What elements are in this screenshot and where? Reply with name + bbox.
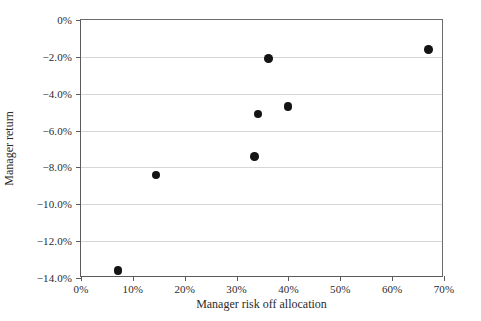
y-tick-mark	[76, 131, 81, 132]
y-axis-title-label: Manager return	[2, 111, 17, 185]
gridline	[81, 204, 442, 205]
x-tick-label: 10%	[123, 283, 143, 295]
y-tick-label: −6.0%	[42, 125, 72, 137]
data-point	[254, 110, 263, 119]
y-tick-mark	[76, 241, 81, 242]
y-tick-label: −8.0%	[42, 161, 72, 173]
y-tick-mark	[76, 204, 81, 205]
x-tick-mark	[185, 276, 186, 281]
y-tick-mark	[76, 57, 81, 58]
data-point	[424, 45, 433, 54]
x-tick-label: 70%	[434, 283, 454, 295]
gridline	[81, 57, 442, 58]
data-point	[152, 171, 161, 180]
x-tick-mark	[288, 276, 289, 281]
x-tick-mark	[340, 276, 341, 281]
data-point	[114, 266, 123, 275]
y-tick-mark	[76, 167, 81, 168]
y-tick-label: 0%	[57, 14, 72, 26]
y-tick-label: −4.0%	[42, 88, 72, 100]
y-tick-label: −12.0%	[37, 235, 72, 247]
data-point	[264, 54, 273, 63]
y-tick-label: −2.0%	[42, 51, 72, 63]
x-tick-mark	[133, 276, 134, 281]
x-tick-mark	[81, 276, 82, 281]
x-tick-label: 0%	[74, 283, 89, 295]
y-tick-label: −10.0%	[37, 198, 72, 210]
x-axis-title: Manager risk off allocation	[80, 297, 443, 312]
data-point	[284, 102, 293, 111]
y-tick-label: −14.0%	[37, 272, 72, 284]
y-tick-mark	[76, 94, 81, 95]
x-tick-label: 50%	[330, 283, 350, 295]
gridline	[81, 131, 442, 132]
gridline	[81, 94, 442, 95]
x-tick-mark	[237, 276, 238, 281]
x-tick-label: 30%	[226, 283, 246, 295]
gridline	[81, 241, 442, 242]
y-tick-mark	[76, 20, 81, 21]
gridline	[81, 167, 442, 168]
x-tick-mark	[392, 276, 393, 281]
x-tick-label: 60%	[382, 283, 402, 295]
data-point	[250, 152, 259, 161]
x-tick-label: 20%	[174, 283, 194, 295]
y-axis-title: Manager return	[0, 19, 18, 277]
plot-area: 0%−2.0%−4.0%−6.0%−8.0%−10.0%−12.0%−14.0%…	[80, 19, 443, 277]
scatter-chart-figure: 0%−2.0%−4.0%−6.0%−8.0%−10.0%−12.0%−14.0%…	[0, 0, 481, 321]
x-tick-mark	[444, 276, 445, 281]
x-axis-title-label: Manager risk off allocation	[196, 297, 327, 311]
x-tick-label: 40%	[278, 283, 298, 295]
